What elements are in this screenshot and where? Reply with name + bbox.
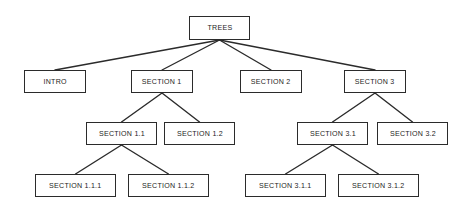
tree-node-label: SECTION 3.1.2 <box>352 182 404 189</box>
tree-node-label: SECTION 1 <box>142 78 182 85</box>
tree-node-s3_1_1[interactable]: SECTION 3.1.1 <box>245 174 326 197</box>
tree-node-label: TREES <box>207 24 232 31</box>
tree-node-s1[interactable]: SECTION 1 <box>131 70 193 93</box>
tree-edge-s3_1-to-s3_1_1 <box>286 145 333 174</box>
tree-node-label: SECTION 3.1.1 <box>259 182 311 189</box>
tree-edge-s3_1-to-s3_1_2 <box>333 145 379 174</box>
tree-node-s3_1_2[interactable]: SECTION 3.1.2 <box>338 174 419 197</box>
tree-node-intro[interactable]: INTRO <box>24 70 86 93</box>
tree-edge-trees-to-intro <box>55 40 220 70</box>
tree-edge-trees-to-s2 <box>220 40 272 70</box>
tree-node-label: SECTION 1.1.2 <box>142 182 194 189</box>
tree-node-s3_2[interactable]: SECTION 3.2 <box>377 122 448 145</box>
tree-edge-trees-to-s1 <box>162 40 220 70</box>
tree-edge-s1-to-s1_2 <box>162 93 200 122</box>
tree-node-s1_1[interactable]: SECTION 1.1 <box>86 122 157 145</box>
tree-node-label: SECTION 1.1 <box>98 130 144 137</box>
tree-node-label: SECTION 3.1 <box>309 130 355 137</box>
tree-node-label: SECTION 1.2 <box>176 130 222 137</box>
tree-diagram-canvas: TREESINTROSECTION 1SECTION 2SECTION 3SEC… <box>0 0 474 210</box>
tree-node-s1_2[interactable]: SECTION 1.2 <box>164 122 235 145</box>
tree-node-label: INTRO <box>43 78 66 85</box>
tree-node-trees[interactable]: TREES <box>189 16 250 40</box>
tree-node-s1_1_2[interactable]: SECTION 1.1.2 <box>128 174 209 197</box>
tree-node-s1_1_1[interactable]: SECTION 1.1.1 <box>35 174 116 197</box>
tree-node-s2[interactable]: SECTION 2 <box>240 70 302 93</box>
tree-edge-s1_1-to-s1_1_1 <box>76 145 122 174</box>
tree-node-label: SECTION 1.1.1 <box>49 182 101 189</box>
tree-edge-s3-to-s3_1 <box>333 93 376 122</box>
tree-node-s3_1[interactable]: SECTION 3.1 <box>297 122 368 145</box>
background-watermark <box>243 7 463 24</box>
tree-node-label: SECTION 2 <box>251 78 291 85</box>
tree-edge-trees-to-s3 <box>220 40 376 70</box>
tree-node-label: SECTION 3.2 <box>389 130 435 137</box>
tree-node-label: SECTION 3 <box>355 78 395 85</box>
tree-edge-s3-to-s3_2 <box>375 93 413 122</box>
tree-edge-s1-to-s1_1 <box>122 93 163 122</box>
tree-node-s3[interactable]: SECTION 3 <box>344 70 406 93</box>
tree-edge-s1_1-to-s1_1_2 <box>122 145 169 174</box>
